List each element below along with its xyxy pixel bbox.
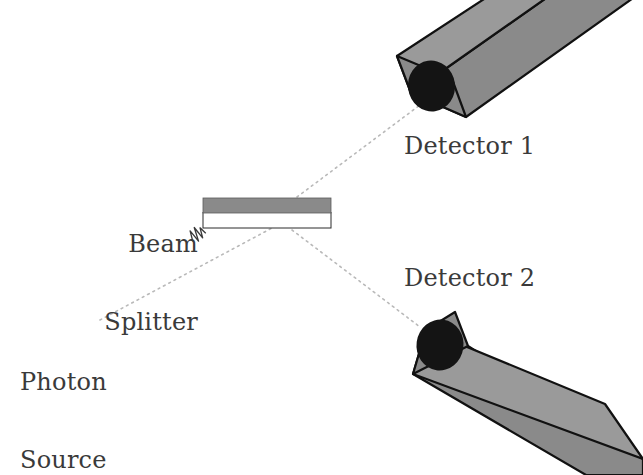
detector-2[interactable]	[413, 312, 643, 475]
beam-splitter-label-line-1: Beam	[102, 232, 198, 258]
detector-1[interactable]	[397, 0, 643, 117]
beam-splitter-label: Beam Splitter	[102, 180, 198, 387]
transmitted-beam-line	[292, 230, 420, 327]
detector-2-label: Detector 2	[404, 266, 535, 292]
photon-source-label-line-1: Photon	[20, 370, 107, 396]
diagram-canvas: Beam Splitter Photon Source Detector 1 D…	[0, 0, 643, 475]
photon-source-label: Photon Source	[20, 318, 107, 475]
photon-source-label-line-2: Source	[20, 448, 107, 474]
detector-1-label: Detector 1	[404, 134, 535, 160]
beam-splitter-label-line-2: Splitter	[102, 310, 198, 336]
beam-splitter-coating	[203, 198, 331, 213]
beam-splitter[interactable]	[203, 198, 331, 228]
reflected-beam-line	[297, 105, 420, 197]
beam-splitter-glass	[203, 213, 331, 229]
